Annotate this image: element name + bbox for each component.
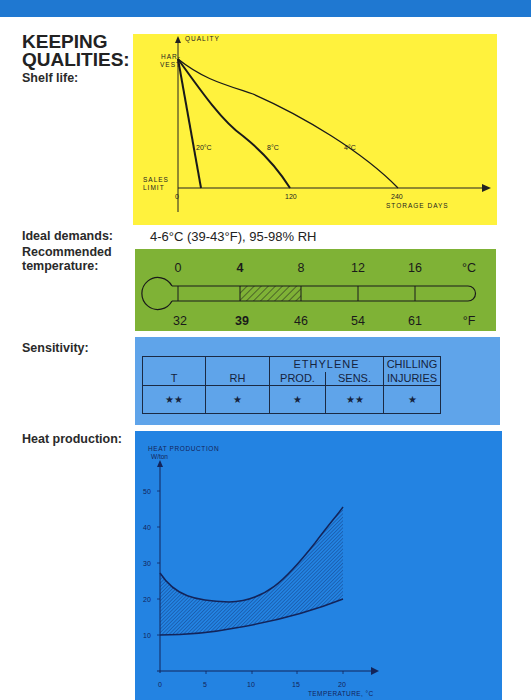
- sensitivity-label: Sensitivity:: [22, 341, 89, 355]
- heat-y-tick-50: 50: [143, 488, 151, 495]
- harvest-label-2: VEST: [160, 61, 181, 68]
- value-ethylene-prod: ★: [270, 386, 326, 414]
- sensitivity-table: T RH ETHYLENE CHILLING PROD. SENS. INJUR…: [142, 356, 441, 414]
- curve-8c: [178, 59, 290, 188]
- header-rh: RH: [206, 357, 270, 386]
- sales-limit-label-1: SALES: [143, 176, 169, 183]
- x-tick-120: 120: [285, 193, 297, 200]
- header-injuries: INJURIES: [384, 372, 441, 386]
- recommended-temperature-label-line-1: Recommended: [22, 245, 112, 259]
- heat-y-tick-30: 30: [143, 560, 151, 567]
- fahrenheit-tick-54: 54: [351, 314, 365, 328]
- header-ethylene: ETHYLENE: [270, 357, 384, 372]
- sales-limit-label-2: LIMIT: [143, 184, 165, 191]
- x-axis-label: STORAGE DAYS: [386, 202, 449, 209]
- shelf-life-label: Shelf life:: [22, 71, 78, 85]
- heat-x-tick-0: 0: [158, 681, 162, 688]
- recommended-range-hatch: [240, 286, 301, 301]
- value-ethylene-sens: ★★: [326, 386, 384, 414]
- fahrenheit-tick-39: 39: [235, 314, 249, 328]
- curve-label-4c: 4°C: [344, 144, 356, 151]
- fahrenheit-tick-32: 32: [173, 314, 187, 328]
- curve-label-20c: 20°C: [196, 144, 212, 151]
- celsius-unit: °C: [462, 261, 476, 275]
- recommended-temperature-thermometer: 0 4 8 12 16 °C 32 39 46 54 61 °F: [135, 249, 496, 331]
- heat-x-tick-20: 20: [338, 681, 346, 688]
- ideal-demands-value: 4-6°C (39-43°F), 95-98% RH: [150, 229, 316, 244]
- heat-x-axis-label: TEMPERATURE, °C: [308, 690, 374, 697]
- x-tick-240: 240: [391, 193, 403, 200]
- heat-x-axis-arrow-icon: [371, 667, 379, 675]
- heat-x-tick-10: 10: [247, 681, 255, 688]
- thermometer-bulb: [142, 278, 172, 310]
- value-t: ★★: [143, 386, 206, 414]
- recommended-temperature-label: Recommended temperature:: [22, 245, 112, 273]
- recommended-temperature-label-line-2: temperature:: [22, 259, 112, 273]
- heat-production-label: Heat production:: [22, 432, 122, 446]
- heat-production-plot: HEAT PRODUCTION W/ton 10 20 30 40 50 0 5…: [135, 431, 502, 700]
- section-title: KEEPING QUALITIES:: [22, 33, 130, 69]
- curve-20c: [178, 59, 201, 188]
- heat-chart-unit: W/ton: [151, 453, 168, 460]
- header-ethylene-sens: SENS.: [326, 372, 384, 386]
- value-chilling-injuries: ★: [384, 386, 441, 414]
- shelf-life-chart: QUALITY HAR- VEST SALES LIMIT 0 120 240 …: [133, 34, 497, 225]
- ideal-demands-label: Ideal demands:: [22, 229, 113, 243]
- celsius-tick-0: 0: [175, 261, 182, 275]
- x-tick-0: 0: [175, 193, 179, 200]
- heat-y-tick-10: 10: [143, 632, 151, 639]
- x-axis-arrow-icon: [482, 184, 491, 192]
- fahrenheit-unit: °F: [463, 314, 476, 328]
- y-axis-label: QUALITY: [185, 35, 220, 43]
- heat-x-tick-15: 15: [292, 681, 300, 688]
- heat-chart-title: HEAT PRODUCTION: [148, 445, 219, 452]
- heat-y-axis-arrow-icon: [157, 460, 163, 467]
- section-title-line-2: QUALITIES:: [22, 51, 130, 69]
- top-color-bar: [0, 0, 531, 17]
- header-chilling: CHILLING: [384, 357, 441, 372]
- thermometer-tube: [172, 286, 476, 301]
- heat-x-tick-5: 5: [203, 681, 207, 688]
- celsius-tick-8: 8: [298, 261, 305, 275]
- heat-y-tick-40: 40: [143, 524, 151, 531]
- heat-production-chart: HEAT PRODUCTION W/ton 10 20 30 40 50 0 5…: [135, 431, 502, 700]
- fahrenheit-tick-46: 46: [294, 314, 308, 328]
- harvest-label-1: HAR-: [161, 53, 181, 60]
- sensitivity-panel: T RH ETHYLENE CHILLING PROD. SENS. INJUR…: [135, 337, 500, 425]
- celsius-tick-12: 12: [351, 261, 365, 275]
- shelf-life-plot: QUALITY HAR- VEST SALES LIMIT 0 120 240 …: [133, 34, 497, 225]
- curve-label-8c: 8°C: [267, 144, 279, 151]
- fahrenheit-tick-61: 61: [408, 314, 422, 328]
- thermometer-graphic: 0 4 8 12 16 °C 32 39 46 54 61 °F: [135, 249, 496, 331]
- header-t: T: [143, 357, 206, 386]
- curve-4c: [178, 59, 398, 188]
- heat-range-hatch: [160, 507, 343, 635]
- value-rh: ★: [206, 386, 270, 414]
- celsius-tick-16: 16: [408, 261, 422, 275]
- celsius-tick-4: 4: [237, 261, 244, 275]
- header-ethylene-prod: PROD.: [270, 372, 326, 386]
- y-axis-arrow-icon: [175, 36, 181, 43]
- heat-y-tick-20: 20: [143, 596, 151, 603]
